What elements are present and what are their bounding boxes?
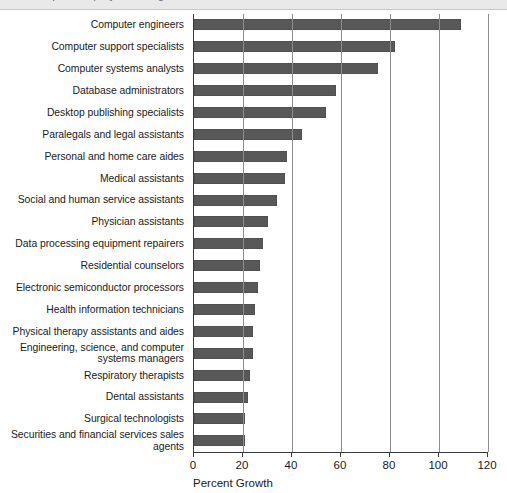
bar[interactable] — [194, 370, 250, 381]
category-label: Surgical technologists — [0, 408, 188, 430]
x-tick-label: 0 — [190, 459, 196, 471]
bar[interactable] — [194, 282, 258, 293]
x-tick-120 — [487, 452, 488, 457]
plot-area — [193, 14, 487, 452]
category-label: Physician assistants — [0, 211, 188, 233]
x-tick-0 — [193, 452, 194, 457]
x-tick-40 — [291, 452, 292, 457]
x-tick-label: 80 — [383, 459, 396, 471]
x-tick-60 — [340, 452, 341, 457]
category-label: Health information technicians — [0, 299, 188, 321]
bar[interactable] — [194, 435, 245, 446]
gridline-100 — [439, 14, 440, 452]
bar[interactable] — [194, 151, 287, 162]
gridline-20 — [243, 14, 244, 452]
bar[interactable] — [194, 304, 255, 315]
clipped-caption-text: the occupations projected to grow the fa… — [8, 0, 241, 1]
bar[interactable] — [194, 260, 260, 271]
category-label: Engineering, science, and computer syste… — [0, 342, 188, 364]
category-label: Database administrators — [0, 80, 188, 102]
gridline-60 — [341, 14, 342, 452]
x-tick-100 — [438, 452, 439, 457]
bar[interactable] — [194, 129, 302, 140]
bar[interactable] — [194, 238, 263, 249]
category-label: Dental assistants — [0, 386, 188, 408]
x-tick-label: 20 — [236, 459, 249, 471]
bar[interactable] — [194, 216, 268, 227]
x-tick-label: 120 — [477, 459, 496, 471]
category-axis-labels: Computer engineersComputer support speci… — [0, 14, 188, 452]
category-label: Medical assistants — [0, 167, 188, 189]
bar[interactable] — [194, 392, 248, 403]
category-label: Social and human service assistants — [0, 189, 188, 211]
bar[interactable] — [194, 173, 285, 184]
category-label: Computer support specialists — [0, 36, 188, 58]
bar[interactable] — [194, 107, 326, 118]
bar[interactable] — [194, 85, 336, 96]
category-label: Paralegals and legal assistants — [0, 123, 188, 145]
gridline-80 — [390, 14, 391, 452]
chart-page: the occupations projected to grow the fa… — [0, 0, 507, 493]
category-label: Personal and home care aides — [0, 145, 188, 167]
category-label: Residential counselors — [0, 255, 188, 277]
x-tick-20 — [242, 452, 243, 457]
category-label: Respiratory therapists — [0, 364, 188, 386]
bar[interactable] — [194, 63, 378, 74]
category-label: Desktop publishing specialists — [0, 102, 188, 124]
category-label: Electronic semiconductor processors — [0, 277, 188, 299]
x-tick-label: 60 — [334, 459, 347, 471]
bar[interactable] — [194, 195, 277, 206]
gridline-120 — [488, 14, 489, 452]
category-label: Computer systems analysts — [0, 58, 188, 80]
x-tick-80 — [389, 452, 390, 457]
bar-chart: Computer engineersComputer support speci… — [0, 9, 507, 493]
gridline-40 — [292, 14, 293, 452]
category-label: Computer engineers — [0, 14, 188, 36]
bar[interactable] — [194, 19, 461, 30]
x-tick-label: 100 — [428, 459, 447, 471]
x-tick-label: 40 — [285, 459, 298, 471]
x-axis-title: Percent Growth — [193, 477, 273, 489]
category-label: Securities and financial services sales … — [0, 430, 188, 452]
category-label: Data processing equipment repairers — [0, 233, 188, 255]
category-label: Physical therapy assistants and aides — [0, 320, 188, 342]
bar[interactable] — [194, 413, 245, 424]
bar[interactable] — [194, 41, 395, 52]
